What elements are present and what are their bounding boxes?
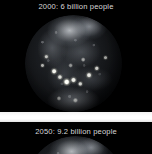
globe-limb-shading	[25, 15, 122, 112]
panel-2000: 2000: 6 billion people	[0, 0, 152, 112]
panel-divider	[0, 112, 152, 122]
caption-2000: 2000: 6 billion people	[0, 3, 152, 11]
caption-2050: 2050: 9.2 billion people	[0, 128, 152, 136]
earth-night-lights-globe-2000	[25, 15, 122, 112]
earth-night-lights-globe-2050	[27, 136, 124, 154]
globe-limb-shading	[27, 136, 124, 154]
globe-container-2000	[0, 15, 152, 112]
panel-2050: 2050: 9.2 billion people	[0, 122, 152, 154]
globe-container-2050	[0, 136, 152, 154]
